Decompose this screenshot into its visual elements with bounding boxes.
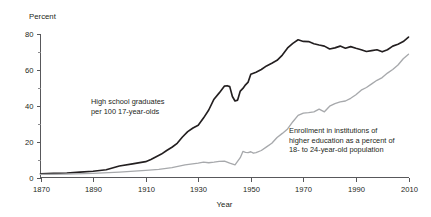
x-tick-label-1870: 1870 [33, 185, 50, 194]
y-tick-label-0: 0 [29, 174, 33, 183]
x-tick-label-1890: 1890 [85, 185, 102, 194]
y-tick-label-60: 60 [25, 66, 33, 75]
y-tick-label-20: 20 [25, 138, 33, 147]
x-tick-label-1970: 1970 [295, 185, 312, 194]
y-tick-label-40: 40 [25, 102, 33, 111]
y-axis-title: Percent [29, 12, 57, 21]
x-tick-label-1930: 1930 [190, 185, 207, 194]
high-school-annotation: High school graduatesper 100 17-year-old… [91, 97, 165, 116]
y-tick-label-80: 80 [25, 30, 33, 39]
higher-education-annotation: Enrollment in institutions ofhigher educ… [289, 126, 396, 154]
x-axis-title: Year [217, 200, 233, 209]
x-tick-label-1910: 1910 [138, 185, 155, 194]
x-tick-label-2010: 2010 [401, 185, 418, 194]
chart-figure: 1870189019101930195019701990201002040608… [0, 0, 431, 217]
x-tick-label-1950: 1950 [243, 185, 260, 194]
x-tick-label-1990: 1990 [348, 185, 365, 194]
chart-labels: 1870189019101930195019701990201002040608… [25, 12, 418, 209]
education-attainment-line-chart: 1870189019101930195019701990201002040608… [0, 0, 431, 217]
